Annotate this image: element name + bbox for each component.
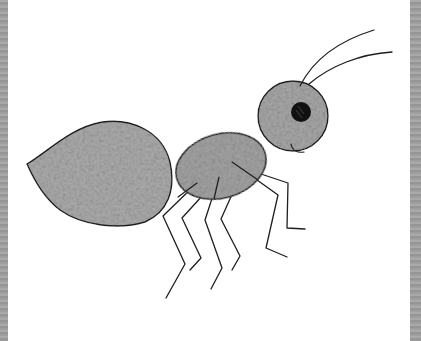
eye [291, 102, 311, 122]
antenna-left [300, 30, 374, 86]
leg-4 [221, 190, 240, 270]
ant-drawing [0, 0, 421, 341]
abdomen [27, 121, 172, 226]
antenna-right [309, 52, 392, 84]
leg-6 [255, 172, 305, 229]
leg-2 [182, 195, 203, 270]
